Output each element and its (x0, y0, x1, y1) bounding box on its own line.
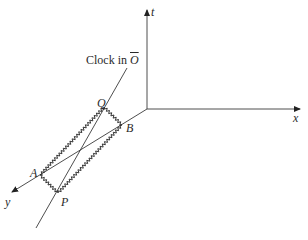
spacetime-diagram (0, 0, 308, 240)
x-axis-label: x (293, 112, 298, 124)
clock-worldline (36, 68, 127, 228)
point-p-label: P (61, 196, 68, 208)
point-b-label: B (126, 122, 133, 134)
edge-b-p (58, 125, 122, 193)
point-q-label: Q (97, 97, 106, 109)
clock-label-prefix: Clock in (86, 53, 130, 67)
point-a-label: A (30, 167, 37, 179)
y-axis-label: y (5, 196, 10, 208)
clock-label: Clock in O (86, 54, 139, 66)
edge-q-b (104, 107, 122, 125)
t-axis-label: t (151, 6, 154, 18)
edge-p-a (40, 175, 58, 193)
clock-frame-label: O (130, 53, 139, 67)
